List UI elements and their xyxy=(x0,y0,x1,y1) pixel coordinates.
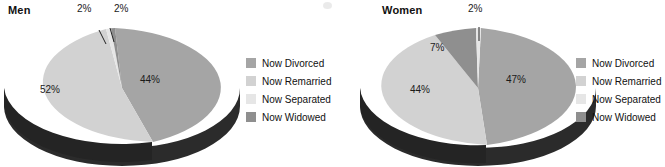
pie-label-women-divorced: 47% xyxy=(506,74,526,85)
chart-panel-men: Men 44% 52% 2% 2% Now Divorced xyxy=(0,0,335,167)
legend-label-now-divorced: Now Divorced xyxy=(592,58,654,69)
legend-label-now-separated: Now Separated xyxy=(262,94,331,105)
pie-slice-women-divorced xyxy=(478,28,576,145)
legend-swatch-icon-now-divorced xyxy=(246,58,256,68)
pie-label-men-remarried: 52% xyxy=(40,84,60,95)
legend-item-now-remarried[interactable]: Now Remarried xyxy=(246,72,331,90)
legend-women: Now Divorced Now Remarried Now Separated… xyxy=(576,54,661,126)
pie-chart-women: 47% 44% 7% 2% xyxy=(358,14,598,166)
legend-item-now-remarried[interactable]: Now Remarried xyxy=(576,72,661,90)
legend-item-now-widowed[interactable]: Now Widowed xyxy=(576,108,661,126)
pie-label-men-separated: 2% xyxy=(77,3,91,14)
legend-item-now-separated[interactable]: Now Separated xyxy=(576,90,661,108)
legend-label-now-remarried: Now Remarried xyxy=(592,76,661,87)
pie-label-men-divorced: 44% xyxy=(140,74,160,85)
legend-swatch-icon-now-widowed xyxy=(246,112,256,122)
legend-swatch-icon-now-remarried xyxy=(576,76,586,86)
legend-swatch-icon-now-remarried xyxy=(246,76,256,86)
pie-chart-men: 44% 52% 2% 2% xyxy=(2,14,242,166)
chart-panel-women: Women 47% 44% 7% 2% Now Divorced xyxy=(330,0,665,167)
legend-item-now-widowed[interactable]: Now Widowed xyxy=(246,108,331,126)
legend-men: Now Divorced Now Remarried Now Separated… xyxy=(246,54,331,126)
pie-label-women-separated: 2% xyxy=(468,3,482,14)
legend-label-now-remarried: Now Remarried xyxy=(262,76,331,87)
legend-item-now-divorced[interactable]: Now Divorced xyxy=(246,54,331,72)
legend-item-now-divorced[interactable]: Now Divorced xyxy=(576,54,661,72)
pie-label-women-remarried: 44% xyxy=(410,84,430,95)
pie-svg-women xyxy=(358,14,598,166)
legend-swatch-icon-now-separated xyxy=(246,94,256,104)
legend-item-now-separated[interactable]: Now Separated xyxy=(246,90,331,108)
legend-label-now-divorced: Now Divorced xyxy=(262,58,324,69)
scan-artifact xyxy=(323,2,332,9)
pie-svg-men xyxy=(2,14,242,166)
legend-label-now-widowed: Now Widowed xyxy=(592,112,656,123)
legend-swatch-icon-now-separated xyxy=(576,94,586,104)
legend-swatch-icon-now-widowed xyxy=(576,112,586,122)
pie-label-men-widowed: 2% xyxy=(114,3,128,14)
pie-label-women-widowed: 7% xyxy=(430,42,444,53)
legend-label-now-separated: Now Separated xyxy=(592,94,661,105)
legend-swatch-icon-now-divorced xyxy=(576,58,586,68)
legend-label-now-widowed: Now Widowed xyxy=(262,112,326,123)
